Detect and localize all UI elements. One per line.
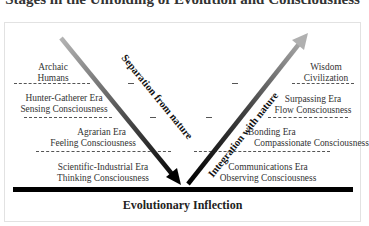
footer-caption: Evolutionary Inflection <box>0 198 365 213</box>
integration-label: Integration with nature <box>206 90 280 180</box>
integration-arrow <box>188 33 308 184</box>
inflection-baseline <box>13 187 353 192</box>
separation-label: Separation from nature <box>119 52 195 141</box>
